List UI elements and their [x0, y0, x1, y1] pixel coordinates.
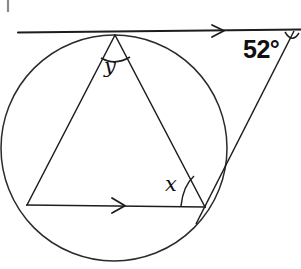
angle-label-52-degrees: 52°: [243, 37, 279, 62]
triangle-left-side: [27, 35, 115, 205]
geometry-diagram: y x 52°: [0, 0, 301, 269]
triangle-right-side: [115, 35, 205, 207]
angle-arc-x: [181, 176, 194, 206]
angle-label-y: y: [104, 56, 116, 77]
tangent-line: [18, 30, 301, 33]
angle-label-x: x: [165, 174, 177, 195]
parallel-chord: [26, 205, 206, 207]
